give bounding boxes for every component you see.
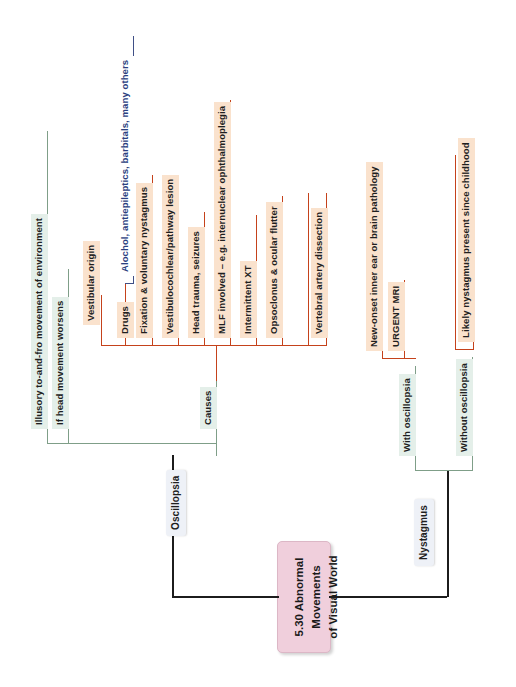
mindmap-canvas: 5.30 Abnormal Movements of Visual World … [0,0,516,687]
node-vestibulocochlear-lesion[interactable]: Vestibulocochlear/pathway lesion [162,175,179,338]
with-oscillopsia-child-bus [382,358,416,359]
node-opsoclonus-ocular-flutter[interactable]: Opsoclonus & ocular flutter [266,202,283,338]
node-new-onset-pathology[interactable]: New-onset inner ear or brain pathology [366,162,383,351]
node-intermittent-xt[interactable]: Intermittent XT [240,261,257,338]
node-urgent-mri[interactable]: URGENT MRI [388,282,405,351]
drugs-detail-elbow [125,283,133,284]
node-fixation-voluntary-nystagmus[interactable]: Fixation & voluntary nystagmus [136,183,153,338]
node-illusory-movement[interactable]: Illusory to-and-fro movement of environm… [31,214,48,429]
node-mlf-involved[interactable]: MLF involved – e.g. internuclear ophthal… [214,102,231,338]
node-drugs-list[interactable]: Alochol, antiepileptics, barbitals, many… [117,56,134,276]
branch-label-oscillopsia[interactable]: Oscillopsia [166,470,186,536]
without-oscillopsia-child-bus [455,349,473,350]
root-node-line2: Movements [309,546,324,648]
root-riser-right [447,470,449,597]
node-vestibular-origin[interactable]: Vestibular origin [83,241,100,325]
stem-vertebral-artery [308,193,309,346]
node-head-trauma-seizures[interactable]: Head trauma, seizures [188,227,205,338]
node-drugs[interactable]: Drugs [117,302,134,338]
root-connector-left [172,596,279,598]
branch-label-nystagmus[interactable]: Nystagmus [414,499,434,566]
nystagmus-child-bus [415,470,473,471]
node-head-movement-worsens[interactable]: If head movement worsens [52,297,69,429]
node-causes[interactable]: Causes [200,387,217,429]
node-with-oscillopsia[interactable]: With oscillopsia [399,374,416,456]
stem-likely-nystagmus-childhood [455,155,456,350]
causes-child-bus [125,345,326,346]
stem-vestibular-origin [101,295,102,346]
oscillopsia-child-bus [47,443,216,444]
root-connector-right [329,596,447,598]
oscillopsia-bus-stem [216,443,217,456]
node-without-oscillopsia[interactable]: Without oscillopsia [456,359,473,456]
vestibular-origin-elbow [101,345,126,346]
node-likely-nystagmus-childhood[interactable]: Likely nystagmus present since childhood [458,138,475,342]
causes-bus-stem [216,345,217,381]
root-node-line1: 5.30 Abnormal [292,546,307,648]
root-node[interactable]: 5.30 Abnormal Movements of Visual World [277,541,331,653]
node-vertebral-artery-dissection[interactable]: Vertebral artery dissection [311,208,328,338]
